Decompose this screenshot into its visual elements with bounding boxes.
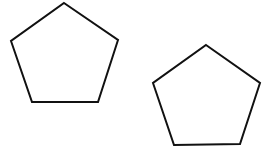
pentagon-left xyxy=(11,3,118,102)
pentagon-right xyxy=(153,45,260,145)
shapes-svg xyxy=(0,0,264,153)
diagram-canvas xyxy=(0,0,264,153)
